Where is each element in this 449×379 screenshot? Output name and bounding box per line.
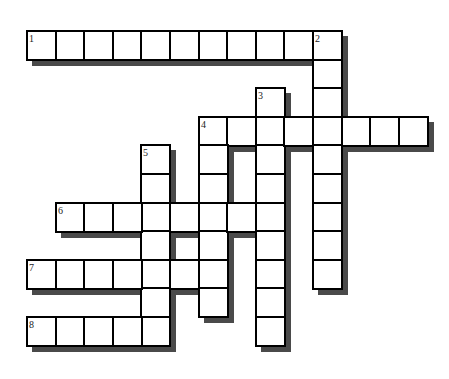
crossword-cell[interactable]: 5 bbox=[140, 144, 171, 175]
crossword-cell[interactable] bbox=[255, 30, 286, 61]
crossword-cell[interactable] bbox=[140, 202, 171, 233]
clue-number: 2 bbox=[315, 34, 320, 44]
crossword-cell[interactable]: 3 bbox=[255, 87, 286, 118]
clue-number: 5 bbox=[143, 148, 148, 158]
crossword-cell[interactable] bbox=[55, 30, 86, 61]
crossword-board: 12345678 bbox=[0, 0, 449, 379]
crossword-cell[interactable] bbox=[283, 116, 314, 147]
crossword-cell[interactable] bbox=[312, 59, 343, 90]
crossword-cell[interactable] bbox=[140, 173, 171, 204]
crossword-cell[interactable] bbox=[198, 230, 229, 261]
crossword-cell[interactable] bbox=[198, 173, 229, 204]
crossword-cell[interactable] bbox=[55, 316, 86, 347]
crossword-cell[interactable] bbox=[83, 30, 114, 61]
crossword-cell[interactable] bbox=[198, 287, 229, 318]
crossword-cell[interactable] bbox=[55, 259, 86, 290]
crossword-cell[interactable] bbox=[83, 316, 114, 347]
clue-number: 3 bbox=[258, 91, 263, 101]
crossword-cell[interactable] bbox=[255, 230, 286, 261]
crossword-cell[interactable] bbox=[312, 202, 343, 233]
clue-number: 6 bbox=[58, 206, 63, 216]
crossword-cell[interactable] bbox=[112, 259, 143, 290]
clue-number: 7 bbox=[29, 263, 34, 273]
crossword-cell[interactable] bbox=[226, 202, 257, 233]
crossword-cell[interactable] bbox=[312, 116, 343, 147]
crossword-cell[interactable] bbox=[312, 144, 343, 175]
crossword-cell[interactable]: 6 bbox=[55, 202, 86, 233]
crossword-cell[interactable] bbox=[255, 144, 286, 175]
crossword-cell[interactable]: 1 bbox=[26, 30, 57, 61]
crossword-cell[interactable] bbox=[312, 87, 343, 118]
crossword-cell[interactable]: 2 bbox=[312, 30, 343, 61]
crossword-cell[interactable] bbox=[83, 202, 114, 233]
crossword-cell[interactable] bbox=[169, 259, 200, 290]
crossword-cell[interactable] bbox=[312, 230, 343, 261]
crossword-cell[interactable] bbox=[83, 259, 114, 290]
crossword-cell[interactable] bbox=[255, 259, 286, 290]
crossword-cell[interactable] bbox=[341, 116, 372, 147]
crossword-cell[interactable] bbox=[255, 202, 286, 233]
crossword-cell[interactable] bbox=[169, 30, 200, 61]
crossword-cell[interactable] bbox=[140, 316, 171, 347]
crossword-cell[interactable]: 4 bbox=[198, 116, 229, 147]
crossword-cell[interactable] bbox=[226, 30, 257, 61]
crossword-cell[interactable] bbox=[255, 173, 286, 204]
crossword-cell[interactable] bbox=[226, 116, 257, 147]
crossword-cell[interactable] bbox=[283, 30, 314, 61]
crossword-cell[interactable] bbox=[112, 202, 143, 233]
crossword-cell[interactable] bbox=[255, 116, 286, 147]
crossword-cell[interactable] bbox=[312, 173, 343, 204]
crossword-cell[interactable] bbox=[140, 287, 171, 318]
crossword-cell[interactable] bbox=[255, 287, 286, 318]
crossword-cell[interactable] bbox=[255, 316, 286, 347]
crossword-cell[interactable]: 8 bbox=[26, 316, 57, 347]
clue-number: 4 bbox=[201, 120, 206, 130]
crossword-cell[interactable] bbox=[198, 202, 229, 233]
clue-number: 1 bbox=[29, 34, 34, 44]
clue-number: 8 bbox=[29, 320, 34, 330]
crossword-cell[interactable] bbox=[112, 30, 143, 61]
crossword-cell[interactable] bbox=[398, 116, 429, 147]
crossword-cell[interactable] bbox=[112, 316, 143, 347]
crossword-cell[interactable] bbox=[140, 30, 171, 61]
crossword-cell[interactable] bbox=[198, 30, 229, 61]
crossword-cell[interactable]: 7 bbox=[26, 259, 57, 290]
crossword-cell[interactable] bbox=[369, 116, 400, 147]
crossword-cell[interactable] bbox=[140, 230, 171, 261]
crossword-cell[interactable] bbox=[169, 202, 200, 233]
crossword-cell[interactable] bbox=[198, 259, 229, 290]
crossword-cell[interactable] bbox=[140, 259, 171, 290]
crossword-cell[interactable] bbox=[198, 144, 229, 175]
crossword-cell[interactable] bbox=[312, 259, 343, 290]
